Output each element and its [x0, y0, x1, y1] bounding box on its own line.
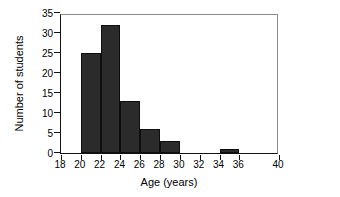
y-axis-tick-label: 15: [29, 89, 53, 99]
plot-area: [60, 14, 278, 154]
y-axis-tick: [54, 132, 60, 133]
x-axis-tick-label: 36: [225, 160, 251, 170]
y-axis-tick-label: 10: [29, 109, 53, 119]
histogram-figure: 05101520253035 1820222426283032343640 Ag…: [0, 0, 340, 197]
y-axis-tick: [54, 32, 60, 33]
histogram-bar: [101, 25, 121, 153]
histogram-bar: [120, 101, 140, 153]
y-axis-tick-label: 0: [29, 149, 53, 159]
histogram-bar: [140, 129, 160, 153]
y-axis-tick-label: 30: [29, 29, 53, 39]
y-axis-tick-label: 5: [29, 129, 53, 139]
x-axis-title: Age (years): [60, 177, 278, 188]
x-axis-tick-label: 40: [265, 160, 291, 170]
histogram-bar: [81, 53, 101, 153]
y-axis-tick-label: 35: [29, 9, 53, 19]
histogram-bar: [220, 149, 240, 153]
y-axis-tick: [54, 92, 60, 93]
y-axis-tick: [54, 72, 60, 73]
histogram-bar: [160, 141, 180, 153]
y-axis-title: Number of students: [14, 9, 25, 159]
y-axis-tick: [54, 52, 60, 53]
bar-series: [61, 15, 277, 153]
y-axis-tick-label: 25: [29, 49, 53, 59]
y-axis-tick: [54, 152, 60, 153]
y-axis-tick: [54, 112, 60, 113]
y-axis-tick: [54, 12, 60, 13]
y-axis-tick-label: 20: [29, 69, 53, 79]
